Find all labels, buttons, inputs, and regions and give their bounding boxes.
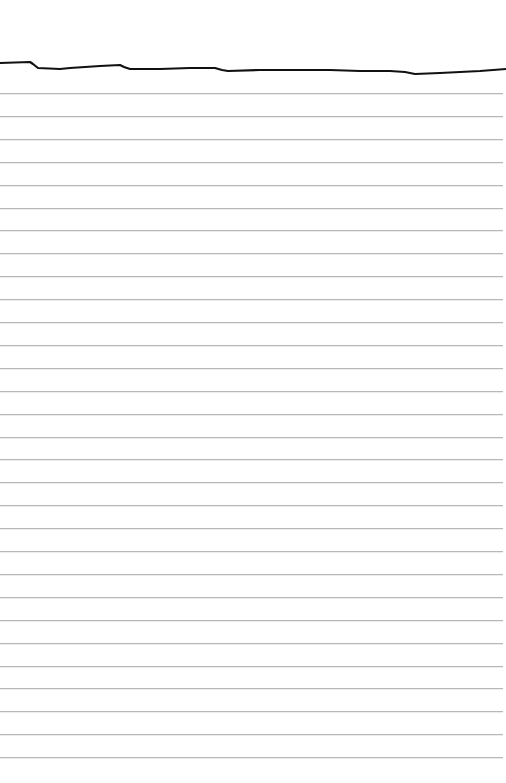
rule-line bbox=[0, 437, 503, 438]
rule-line bbox=[0, 482, 503, 483]
rule-line bbox=[0, 528, 503, 529]
rule-line bbox=[0, 368, 503, 369]
rule-line bbox=[0, 414, 503, 415]
rule-line bbox=[0, 666, 503, 667]
rule-line bbox=[0, 757, 503, 758]
rule-line bbox=[0, 711, 503, 712]
rule-line bbox=[0, 734, 503, 735]
rule-line bbox=[0, 574, 503, 575]
rule-line bbox=[0, 345, 503, 346]
rule-line bbox=[0, 276, 503, 277]
hand-drawn-line bbox=[0, 0, 506, 120]
rule-line bbox=[0, 505, 503, 506]
rule-line bbox=[0, 253, 503, 254]
rule-line bbox=[0, 688, 503, 689]
rule-line bbox=[0, 139, 503, 140]
rule-line bbox=[0, 551, 503, 552]
rule-line bbox=[0, 230, 503, 231]
rule-line bbox=[0, 162, 503, 163]
rule-line bbox=[0, 597, 503, 598]
rule-line bbox=[0, 299, 503, 300]
rule-line bbox=[0, 391, 503, 392]
rule-line bbox=[0, 208, 503, 209]
rule-line bbox=[0, 620, 503, 621]
ink-stroke bbox=[0, 62, 506, 74]
rule-line bbox=[0, 459, 503, 460]
rule-line bbox=[0, 322, 503, 323]
rule-line bbox=[0, 643, 503, 644]
ruled-paper bbox=[0, 0, 506, 783]
rule-line bbox=[0, 185, 503, 186]
